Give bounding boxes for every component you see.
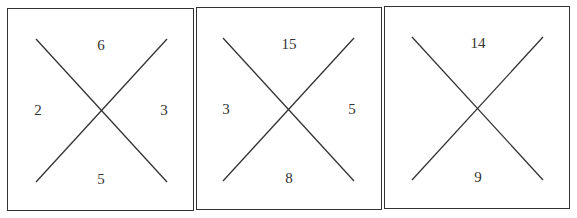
number-bottom: 9 (474, 169, 482, 186)
number-left: 3 (222, 101, 230, 118)
puzzle-panel-3: 14 9 (384, 6, 570, 209)
number-bottom: 5 (97, 171, 105, 188)
puzzle-panel-1: 6 2 3 5 (7, 8, 194, 211)
number-top: 14 (471, 35, 486, 52)
puzzle-panel-2: 15 3 5 8 (196, 7, 382, 210)
number-right: 5 (348, 101, 356, 118)
number-top: 6 (97, 37, 105, 54)
number-right: 3 (160, 102, 168, 119)
number-bottom: 8 (285, 170, 293, 187)
number-left: 2 (34, 102, 42, 119)
number-top: 15 (282, 36, 297, 53)
